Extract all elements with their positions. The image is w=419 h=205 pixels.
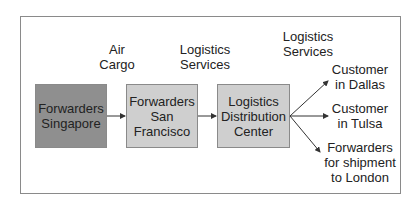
label-air-cargo: Air Cargo	[92, 42, 142, 72]
dest-forwarders-london: Forwarders for shipment to London	[317, 140, 403, 185]
node-label: Forwarders Singapore	[38, 101, 104, 131]
node-label: Forwarders San Francisco	[129, 94, 195, 139]
dest-customer-tulsa: Customer in Tulsa	[322, 101, 398, 131]
node-forwarders-san-francisco: Forwarders San Francisco	[126, 84, 198, 148]
node-forwarders-singapore: Forwarders Singapore	[35, 84, 107, 148]
node-label: Logistics Distribution Center	[221, 94, 286, 139]
label-logistics-services-1: Logistics Services	[172, 42, 238, 72]
label-logistics-services-2: Logistics Services	[275, 29, 341, 59]
dest-customer-dallas: Customer in Dallas	[322, 62, 398, 92]
node-logistics-distribution-center: Logistics Distribution Center	[217, 84, 290, 148]
